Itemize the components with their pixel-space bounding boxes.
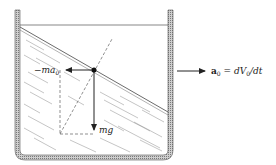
gravity-force-label: mg — [99, 125, 114, 135]
tank-diagram: −ma0 mg a0 = dV0/dt — [0, 0, 276, 165]
acceleration-label: a0 = dV0/dt — [211, 66, 263, 77]
fluid-particle — [92, 68, 97, 73]
inertial-force-label: −ma0 — [34, 65, 59, 76]
force-parallelogram — [60, 39, 112, 134]
